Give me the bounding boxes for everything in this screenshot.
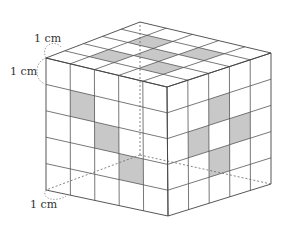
right-shaded-cell [188,125,209,158]
top-dimension-arc [45,43,62,58]
label-bottom-1cm: 1 cm [30,198,58,211]
top-grid-line [167,53,271,87]
top-shaded-cell [128,35,173,48]
top-shaded-cell [139,62,184,75]
left-dimension-arc [37,58,46,84]
right-grid-line [188,80,189,209]
top-shaded-cell [89,50,133,63]
front-grid-line [119,75,120,205]
dimension-arcs [37,43,66,199]
top-grid-line [140,22,271,53]
right-shaded-cell [230,112,251,145]
label-top-1cm: 1 cm [34,32,62,45]
dimension-labels: 1 cm 1 cm 1 cm [10,32,62,211]
right-grid-line [209,73,210,203]
right-shaded-cell [209,93,230,126]
top-shaded-cell [179,48,225,61]
right-grid-line [168,184,271,216]
top-grid-line [46,58,167,87]
front-grid-line [143,81,144,211]
cube-svg: 1 cm 1 cm 1 cm [0,0,290,231]
label-left-1cm: 1 cm [10,65,38,78]
hidden-edge [140,155,271,184]
front-grid-line [46,164,168,191]
front-grid-line [46,190,168,216]
cube-diagram: 1 cm 1 cm 1 cm [0,0,290,231]
front-grid-line [46,84,167,112]
right-grid-line [167,87,168,216]
